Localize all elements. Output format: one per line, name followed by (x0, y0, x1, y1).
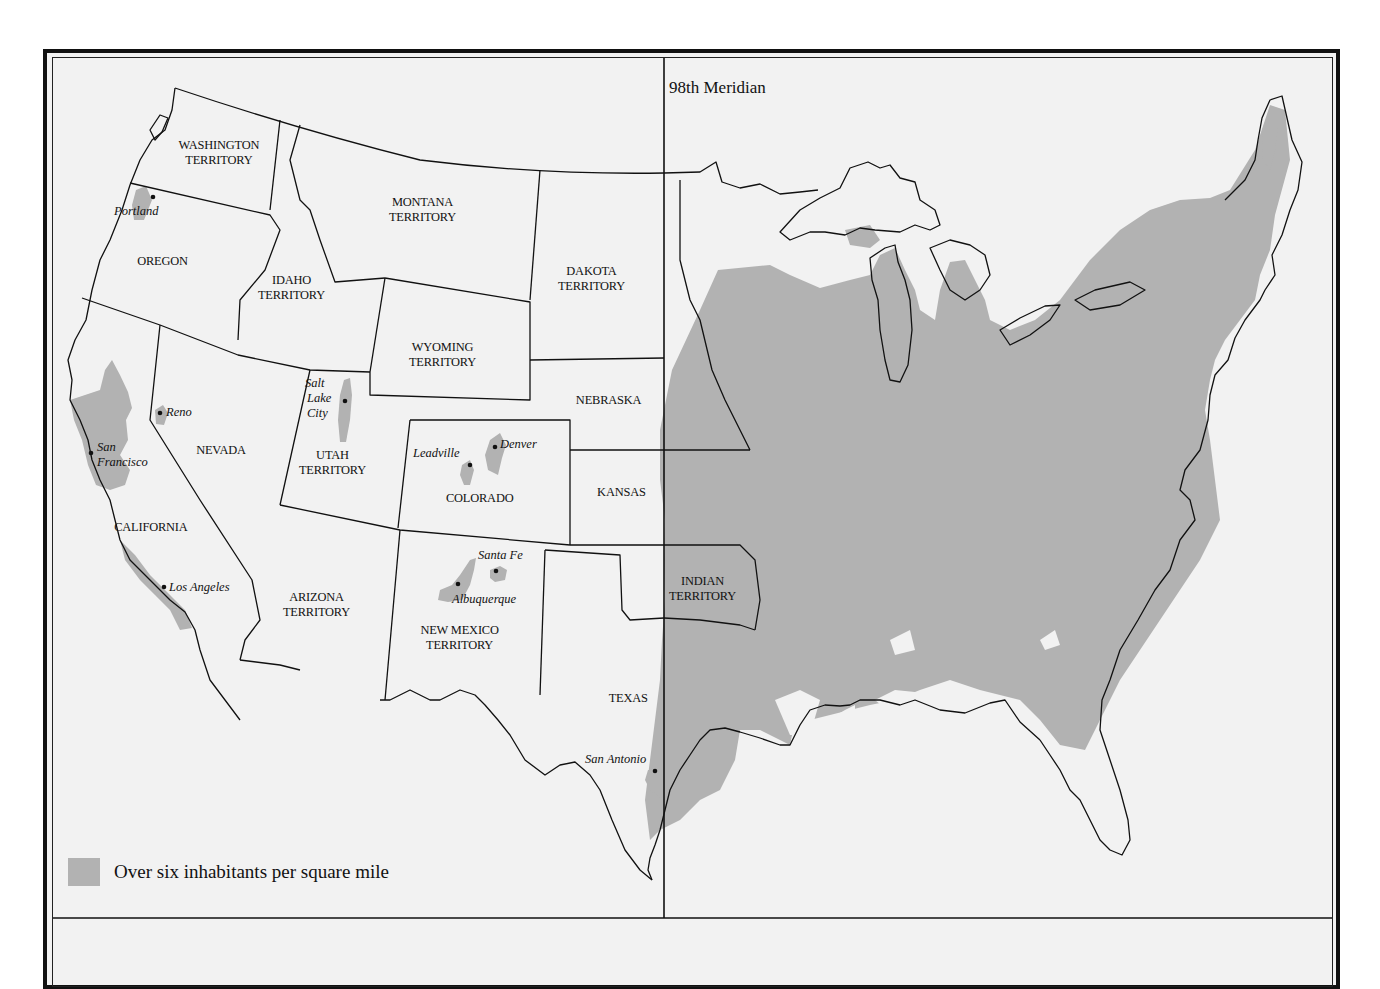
portland-dot (151, 195, 156, 200)
label-idaho-territory: IDAHOTERRITORY (258, 272, 325, 302)
city-reno: Reno (166, 405, 192, 419)
city-denver: Denver (500, 437, 537, 451)
city-portland: Portland (114, 204, 158, 218)
city-albuquerque: Albuquerque (452, 592, 516, 606)
san-antonio-dot (653, 769, 658, 774)
label-utah-territory: UTAHTERRITORY (299, 447, 366, 477)
city-san-francisco: SanFrancisco (97, 440, 148, 470)
label-oregon: OREGON (137, 253, 188, 268)
map-legend: Over six inhabitants per square mile (68, 858, 389, 886)
leadville-dot (468, 463, 473, 468)
label-wyoming-territory: WYOMINGTERRITORY (409, 339, 476, 369)
label-montana-territory: MONTANATERRITORY (389, 194, 456, 224)
san-francisco-dot (89, 451, 94, 456)
label-california: CALIFORNIA (114, 519, 187, 534)
label-nevada: NEVADA (196, 442, 246, 457)
legend-label: Over six inhabitants per square mile (114, 861, 389, 883)
label-washington-territory: WASHINGTONTERRITORY (179, 137, 260, 167)
label-arizona-territory: ARIZONATERRITORY (283, 589, 350, 619)
city-salt-lake-city: SaltLakeCity (305, 376, 331, 421)
label-new-mexico-territory: NEW MEXICOTERRITORY (420, 622, 498, 652)
city-san-antonio: San Antonio (585, 752, 646, 766)
city-santa-fe: Santa Fe (478, 548, 523, 562)
label-kansas: KANSAS (597, 484, 646, 499)
city-los-angeles: Los Angeles (169, 580, 230, 594)
legend-swatch (68, 858, 100, 886)
los-angeles-dot (162, 585, 167, 590)
city-leadville: Leadville (413, 446, 460, 460)
salt-lake-dot (343, 399, 348, 404)
denver-dot (493, 445, 498, 450)
santa-fe-dot (494, 569, 499, 574)
label-texas: TEXAS (609, 690, 648, 705)
albuquerque-dot (456, 582, 461, 587)
label-indian-territory: INDIANTERRITORY (669, 573, 736, 603)
meridian-label: 98th Meridian (669, 78, 766, 98)
label-nebraska: NEBRASKA (576, 392, 641, 407)
reno-dot (158, 411, 163, 416)
label-dakota-territory: DAKOTATERRITORY (558, 263, 625, 293)
label-colorado: COLORADO (446, 490, 514, 505)
